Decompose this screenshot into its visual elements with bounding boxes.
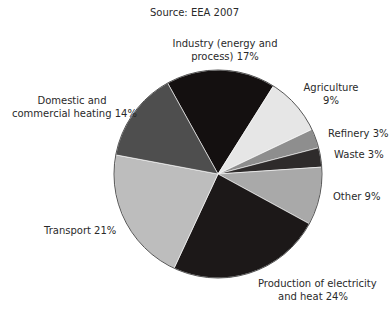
label-production: Production of electricity and heat 24%: [258, 277, 368, 303]
label-agriculture-line1: Agriculture: [296, 81, 366, 94]
label-other: Other 9%: [333, 190, 380, 203]
label-domestic-line1: Domestic and: [12, 94, 132, 107]
label-production-line2: and heat 24%: [258, 290, 368, 303]
label-industry-line1: Industry (energy and: [150, 37, 300, 50]
label-industry-line2: process) 17%: [150, 50, 300, 63]
label-agriculture-line2: 9%: [296, 94, 366, 107]
label-transport: Transport 21%: [44, 224, 116, 237]
label-domestic-line2: commercial heating 14%: [12, 107, 132, 120]
label-agriculture: Agriculture 9%: [296, 81, 366, 107]
label-industry: Industry (energy and process) 17%: [150, 37, 300, 63]
label-waste: Waste 3%: [334, 148, 384, 161]
label-refinery: Refinery 3%: [328, 127, 389, 140]
label-domestic: Domestic and commercial heating 14%: [12, 94, 132, 120]
label-production-line1: Production of electricity: [258, 277, 368, 290]
